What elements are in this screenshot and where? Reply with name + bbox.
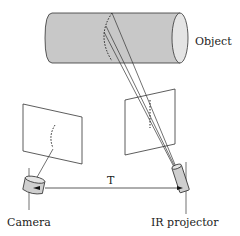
- projector-label: IR projector: [151, 216, 219, 229]
- observed-stripe: [51, 125, 55, 148]
- structured-light-diagram: T Object Camera IR projector: [0, 0, 240, 236]
- camera-ray: [36, 149, 53, 179]
- projector-pattern-plane: [125, 89, 175, 155]
- baseline-label: T: [107, 174, 115, 187]
- camera-image-plane: [23, 104, 82, 164]
- object-label: Object: [195, 35, 232, 48]
- camera-device: [22, 168, 45, 210]
- camera-label: Camera: [7, 216, 51, 229]
